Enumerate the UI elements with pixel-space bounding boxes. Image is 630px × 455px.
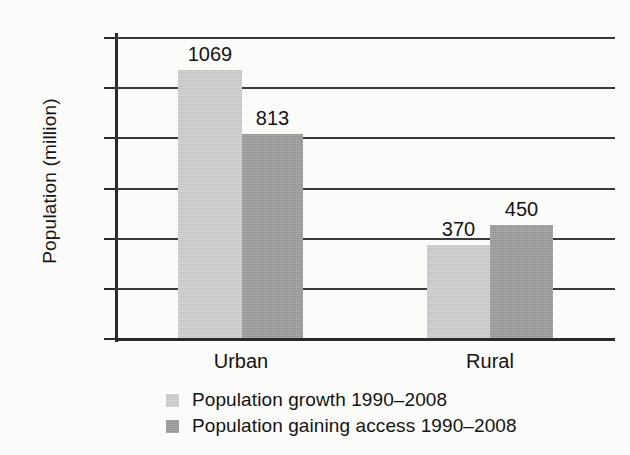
y-tick-600 xyxy=(104,188,115,190)
value-label-urban-growth: 1069 xyxy=(166,43,254,66)
plot-area: 1200100080060040020001069813370450 xyxy=(115,37,615,338)
category-label-rural: Rural xyxy=(410,350,570,373)
y-axis-title: Population (million) xyxy=(39,61,61,301)
y-tick-200 xyxy=(104,288,115,290)
category-label-urban: Urban xyxy=(161,350,321,373)
y-tick-400 xyxy=(104,238,115,240)
legend-item-growth[interactable]: Population growth 1990–2008 xyxy=(166,387,517,413)
gridline-0 xyxy=(115,338,615,341)
legend-swatch-dark-icon xyxy=(166,420,179,433)
gridline-1200 xyxy=(115,37,615,39)
value-label-rural-growth: 370 xyxy=(415,218,502,241)
chart-legend: Population growth 1990–2008 Population g… xyxy=(166,387,517,439)
y-tick-0 xyxy=(104,338,115,340)
legend-swatch-light-icon xyxy=(166,394,179,407)
chart-canvas: Population (million) 1200100080060040020… xyxy=(0,0,630,455)
bar-urban-access[interactable] xyxy=(242,134,303,338)
bar-rural-growth[interactable] xyxy=(427,245,490,338)
bar-rural-access[interactable] xyxy=(490,225,553,338)
value-label-urban-access: 813 xyxy=(230,107,315,130)
legend-label-access: Population gaining access 1990–2008 xyxy=(192,415,517,437)
value-label-rural-access: 450 xyxy=(478,198,565,221)
y-tick-1200 xyxy=(104,37,115,39)
y-tick-1000 xyxy=(104,87,115,89)
legend-label-growth: Population growth 1990–2008 xyxy=(192,389,447,411)
y-tick-800 xyxy=(104,137,115,139)
legend-item-access[interactable]: Population gaining access 1990–2008 xyxy=(166,413,517,439)
